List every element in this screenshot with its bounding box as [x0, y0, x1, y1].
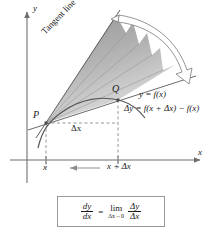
y-axis-label: y — [33, 4, 37, 13]
delta-y-delta-x-fraction: Δy Δx — [128, 202, 141, 222]
point-p-label: P — [33, 110, 39, 120]
dy-numerator: dy — [81, 202, 94, 211]
x-plus-delta-x-tick-label: x + Δx — [107, 162, 131, 171]
x-tick-label: x — [43, 163, 47, 172]
derivative-formula-box: dy dx = lim Δx→0 Δy Δx — [57, 196, 165, 227]
point-p-marker — [44, 121, 47, 124]
delta-y-label: Δy = f(x + Δx) − f(x) — [124, 104, 199, 113]
delta-y-numerator: Δy — [128, 202, 141, 211]
dy-dx-fraction: dy dx — [81, 202, 94, 222]
delta-x-label: Δx — [71, 124, 81, 133]
x-axis-label: x — [198, 148, 202, 157]
equals-sign: = — [97, 207, 104, 217]
dx-denominator: dx — [81, 211, 94, 221]
point-q-marker — [116, 98, 119, 101]
point-q-label: Q — [112, 84, 119, 94]
delta-x-denominator: Δx — [128, 211, 141, 221]
limit-word: lim — [110, 204, 122, 213]
limit-subscript: Δx→0 — [108, 213, 124, 219]
limit-operator: lim Δx→0 — [108, 204, 124, 220]
derivative-figure: y x P Q Tangent line y = f(x) Δy = f(x +… — [0, 0, 222, 234]
derivative-formula: dy dx = lim Δx→0 Δy Δx — [81, 202, 142, 222]
curve-equation-label: y = f(x) — [139, 90, 166, 99]
